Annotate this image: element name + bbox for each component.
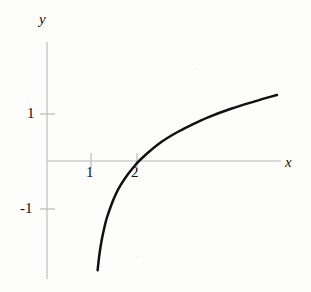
function-curve [98,95,277,270]
x-axis-label: x [285,155,292,170]
x-tick-label-2: 2 [131,165,139,180]
y-tick-label-negative-1: -1 [20,201,33,216]
plot-canvas [0,0,311,292]
x-tick-label-1: 1 [86,165,94,180]
y-tick-label-1: 1 [27,106,35,121]
function-plot-figure: y x 1 -1 1 2 [0,0,311,292]
y-axis-label: y [39,12,46,27]
